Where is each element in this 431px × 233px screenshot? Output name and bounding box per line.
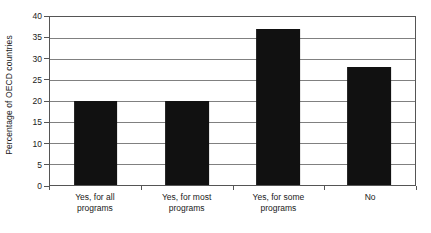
y-axis-tick-label: 5 [18, 160, 42, 169]
y-axis-tick-label: 15 [18, 118, 42, 127]
bar-slot [324, 17, 415, 185]
y-axis-tick-label: 40 [18, 12, 42, 21]
y-axis-tick-label: 30 [18, 54, 42, 63]
x-axis-tick-mark [49, 186, 50, 190]
x-axis-category-label-line1: Yes, for some [253, 192, 305, 202]
x-axis-category-label-line2: programs [141, 203, 233, 214]
x-axis-tick-mark [233, 186, 234, 190]
y-axis-tick-label: 10 [18, 139, 42, 148]
y-axis-tick-label: 25 [18, 75, 42, 84]
bar-slot [141, 17, 232, 185]
bar-slot [233, 17, 324, 185]
x-axis-category-label-line1: No [365, 192, 376, 202]
x-axis-tick-mark [324, 186, 325, 190]
bar-chart: Percentage of OECD countries 05101520253… [0, 0, 431, 233]
y-axis-tick-label: 0 [18, 182, 42, 191]
x-axis-category-label-line2: programs [49, 203, 141, 214]
bar-slot [50, 17, 141, 185]
x-axis-category-label-line1: Yes, for all [75, 192, 114, 202]
x-axis-category-label: Yes, for someprograms [233, 192, 325, 214]
x-axis-category-label: Yes, for allprograms [49, 192, 141, 214]
x-axis-category-label: No [324, 192, 416, 203]
y-axis-tick-labels: 0510152025303540 [18, 16, 42, 186]
bar[interactable] [165, 101, 209, 185]
x-axis-category-label-line2: programs [233, 203, 325, 214]
bar[interactable] [347, 67, 391, 185]
y-axis-tick-label: 35 [18, 33, 42, 42]
y-axis-title: Percentage of OECD countries [0, 0, 18, 190]
x-axis-tick-mark [416, 186, 417, 190]
y-axis-tick-label: 20 [18, 97, 42, 106]
bar[interactable] [74, 101, 118, 185]
y-axis-title-text: Percentage of OECD countries [4, 35, 14, 155]
bar[interactable] [256, 29, 300, 185]
plot-area [49, 16, 416, 186]
x-axis-tick-mark [141, 186, 142, 190]
x-axis-category-labels: Yes, for allprogramsYes, for mostprogram… [49, 192, 416, 230]
x-axis-category-label: Yes, for mostprograms [141, 192, 233, 214]
x-axis-category-label-line1: Yes, for most [162, 192, 211, 202]
bars-layer [50, 17, 415, 185]
x-axis-tick-marks [49, 186, 416, 191]
